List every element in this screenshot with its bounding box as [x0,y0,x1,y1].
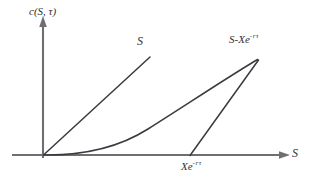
intrinsic-value-line-label: S-Xe-rτ [229,33,259,45]
intrinsic-line-exponent: -rτ [250,32,259,40]
y-axis-label: c(S, τ) [29,6,56,17]
x-axis-label: S [292,147,298,159]
strike-tick-exponent: -rτ [193,159,202,167]
option-value-diagram [0,0,309,190]
figure-background [0,0,309,190]
strike-tick-label: Xe-rτ [181,160,202,172]
asset-line-label: S [137,35,143,47]
